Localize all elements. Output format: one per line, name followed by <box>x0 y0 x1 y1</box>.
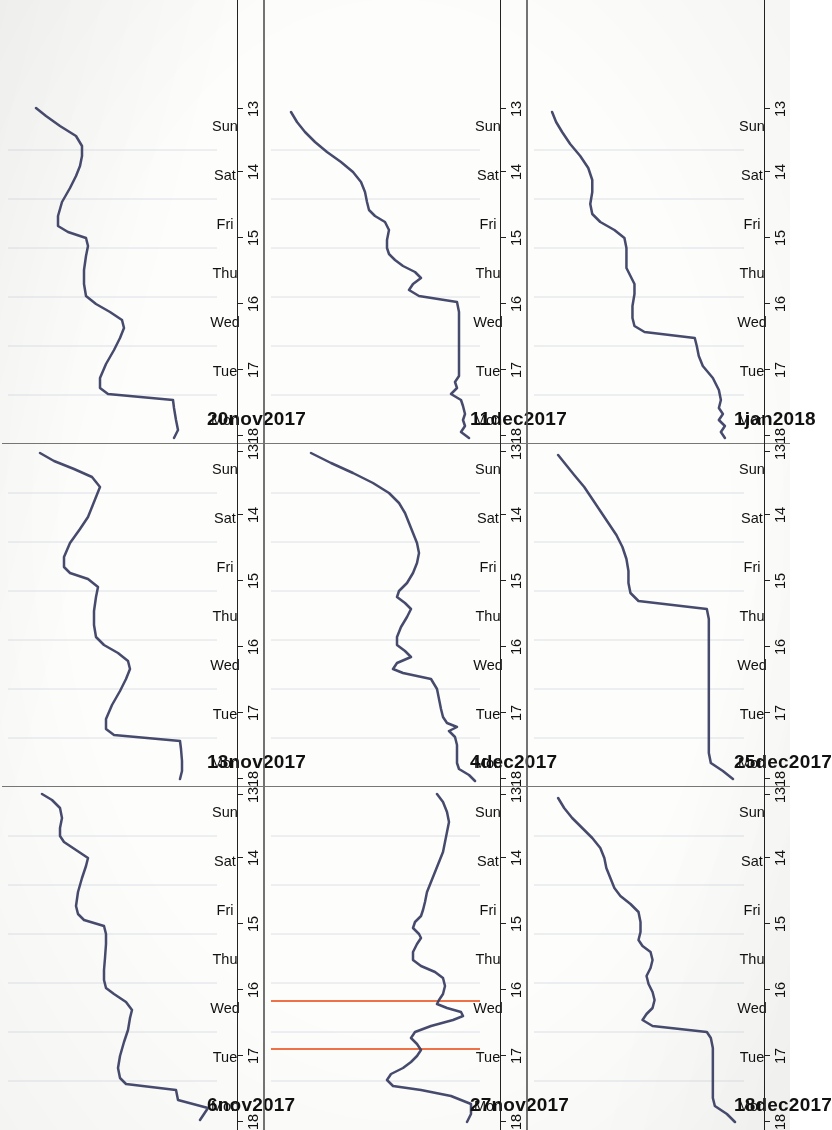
value-tick-17: 17 <box>772 1048 788 1064</box>
gridlines <box>534 150 744 395</box>
value-tick-18: 18 <box>772 428 788 444</box>
plot-svg <box>8 101 217 444</box>
day-tick-sat: Sat <box>477 853 499 869</box>
day-tick-thu: Thu <box>740 265 765 281</box>
value-tick-16: 16 <box>245 296 261 312</box>
day-tick-sun: Sun <box>475 461 501 477</box>
day-tick-mon: Mon <box>474 1098 502 1114</box>
panel-13nov2017[interactable]: 13nov2017 Mon Tue Wed Thu Fri Sat Sun <box>0 444 263 787</box>
gridlines <box>8 836 217 1081</box>
plot-svg <box>271 444 480 787</box>
panel-1jan2018[interactable]: 1jan2018 Mon Tue Wed Thu Fri Sat Sun <box>526 101 790 444</box>
plot-svg <box>534 444 744 787</box>
gridlines <box>534 493 744 738</box>
day-tick-fri: Fri <box>744 902 761 918</box>
plot-svg <box>8 444 217 787</box>
day-tick-fri: Fri <box>217 559 234 575</box>
value-tick-14: 14 <box>508 164 524 180</box>
day-tick-mon: Mon <box>738 755 766 771</box>
day-tick-tue: Tue <box>213 363 237 379</box>
day-tick-mon: Mon <box>211 1098 239 1114</box>
series-line <box>311 453 475 781</box>
panel-27nov2017[interactable]: 27nov2017 Mon Tue Wed Thu Fri Sat Sun <box>263 787 526 1130</box>
day-tick-sun: Sun <box>739 118 765 134</box>
value-tick-16: 16 <box>508 639 524 655</box>
day-axis: Mon Tue Wed Thu Fri Sat Sun <box>480 787 500 1130</box>
value-axis-line <box>764 0 765 1130</box>
panel-11dec2017[interactable]: 11dec2017 Mon Tue Wed Thu Fri Sat Sun <box>263 101 526 444</box>
day-tick-fri: Fri <box>480 902 497 918</box>
band-separator-1 <box>263 0 265 1130</box>
band-separator-2 <box>526 0 528 1130</box>
day-tick-mon: Mon <box>211 755 239 771</box>
value-tick-13: 13 <box>245 444 261 460</box>
plot-area <box>534 787 744 1130</box>
value-tick-15: 15 <box>245 916 261 932</box>
value-tick-14: 14 <box>508 850 524 866</box>
day-tick-sat: Sat <box>741 853 763 869</box>
plot-svg <box>534 787 744 1130</box>
value-tick-13: 13 <box>772 787 788 803</box>
day-tick-sat: Sat <box>477 510 499 526</box>
value-tick-14: 14 <box>772 507 788 523</box>
value-tick-16: 16 <box>772 296 788 312</box>
plot-area <box>271 101 480 444</box>
gridlines <box>271 493 480 738</box>
value-tick-18: 18 <box>508 1114 524 1130</box>
day-axis: Mon Tue Wed Thu Fri Sat Sun <box>217 101 237 444</box>
day-tick-thu: Thu <box>740 951 765 967</box>
series-line <box>291 112 469 438</box>
value-tick-14: 14 <box>245 507 261 523</box>
series-line <box>552 112 725 438</box>
plot-area <box>534 101 744 444</box>
value-axis-band-middle: 18 17 16 15 14 13 18 17 16 15 14 13 <box>500 0 526 1130</box>
panel-20nov2017[interactable]: 20nov2017 Mon Tue Wed Thu Fri Sat Sun <box>0 101 263 444</box>
panel-25dec2017[interactable]: 25dec2017 Mon Tue Wed Thu Fri Sat Sun <box>526 444 790 787</box>
value-tick-16: 16 <box>772 639 788 655</box>
panel-4dec2017[interactable]: 4dec2017 Mon Tue Wed Thu Fri Sat Sun <box>263 444 526 787</box>
value-tick-13: 13 <box>508 787 524 803</box>
value-tick-17: 17 <box>508 362 524 378</box>
panel-band-top: 6nov2017 Mon Tue Wed Thu Fri Sat Sun <box>0 0 263 1130</box>
plot-area <box>8 444 217 787</box>
day-axis: Mon Tue Wed Thu Fri Sat Sun <box>480 444 500 787</box>
value-tick-15: 15 <box>245 573 261 589</box>
panel-18dec2017[interactable]: 18dec2017 Mon Tue Wed Thu Fri Sat Sun <box>526 787 790 1130</box>
day-tick-wed: Wed <box>737 657 767 673</box>
value-tick-17: 17 <box>508 705 524 721</box>
day-axis: Mon Tue Wed Thu Fri Sat Sun <box>744 787 764 1130</box>
day-tick-thu: Thu <box>740 608 765 624</box>
day-tick-thu: Thu <box>476 265 501 281</box>
gridlines <box>271 836 480 1081</box>
day-tick-tue: Tue <box>213 706 237 722</box>
day-tick-tue: Tue <box>740 1049 764 1065</box>
value-tick-15: 15 <box>508 573 524 589</box>
value-tick-15: 15 <box>772 573 788 589</box>
day-tick-tue: Tue <box>476 363 500 379</box>
plot-svg <box>271 787 480 1130</box>
panel-6nov2017[interactable]: 6nov2017 Mon Tue Wed Thu Fri Sat Sun <box>0 787 263 1130</box>
value-tick-17: 17 <box>772 362 788 378</box>
value-tick-17: 17 <box>245 705 261 721</box>
plot-svg <box>271 101 480 444</box>
value-tick-14: 14 <box>772 850 788 866</box>
day-tick-sat: Sat <box>214 167 236 183</box>
day-tick-thu: Thu <box>213 608 238 624</box>
value-tick-17: 17 <box>772 705 788 721</box>
value-tick-18: 18 <box>245 771 261 787</box>
value-tick-13: 13 <box>245 101 261 117</box>
gridlines <box>8 150 217 395</box>
day-axis: Mon Tue Wed Thu Fri Sat Sun <box>480 101 500 444</box>
day-tick-sat: Sat <box>477 167 499 183</box>
value-tick-15: 15 <box>508 230 524 246</box>
day-tick-fri: Fri <box>480 559 497 575</box>
value-tick-18: 18 <box>245 428 261 444</box>
series-line <box>387 794 471 1122</box>
day-tick-tue: Tue <box>740 363 764 379</box>
day-tick-sat: Sat <box>741 510 763 526</box>
day-tick-sat: Sat <box>214 853 236 869</box>
value-tick-13: 13 <box>508 101 524 117</box>
series-line <box>558 798 735 1122</box>
